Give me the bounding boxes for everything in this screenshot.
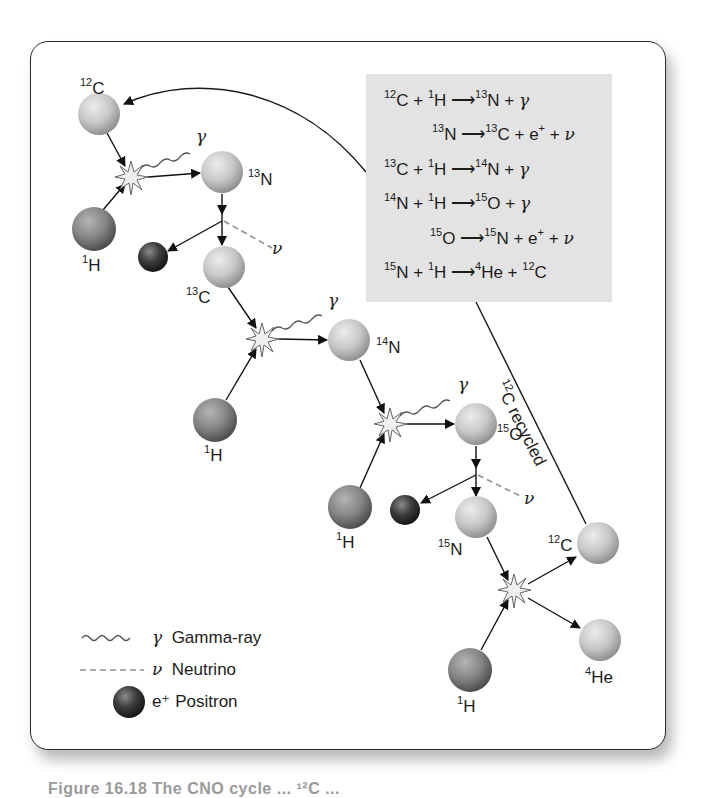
nucleus-o15	[455, 403, 497, 445]
figure-caption: Figure 16.18 The CNO cycle ... ¹²C ...	[48, 780, 340, 798]
nucleus-h1-c	[328, 485, 372, 529]
legend-neutrino: ν Neutrino	[152, 659, 236, 680]
gamma-label-2: γ	[328, 290, 338, 310]
gamma-label-3: γ	[458, 374, 468, 394]
positron-1	[138, 242, 168, 272]
label-n14: 14N	[376, 338, 401, 358]
label-h1-a: 1H	[82, 256, 100, 276]
label-h1-d: 1H	[457, 697, 475, 717]
nucleus-h1-a	[72, 207, 116, 251]
legend-gamma: γ Gamma-ray	[152, 627, 261, 648]
nucleus-n15	[455, 496, 497, 538]
legend-positron-icon	[113, 686, 145, 718]
label-c12-in: 12C	[80, 79, 105, 99]
positron-2	[390, 495, 420, 525]
label-c13: 13C	[186, 288, 211, 308]
equation-1: 12C + 1H ⟶13N + γ	[384, 90, 529, 111]
nucleus-he4	[579, 619, 621, 661]
nucleus-c13	[203, 246, 245, 288]
nucleus-n13	[201, 151, 243, 193]
nucleus-c12-in	[78, 93, 120, 135]
equation-6: 15N + 1H ⟶4He + 12C	[384, 262, 547, 283]
neutrino-label-1: ν	[272, 238, 282, 258]
equation-5: 15O ⟶15N + e+ + ν	[430, 228, 574, 249]
label-h1-b: 1H	[204, 446, 222, 466]
label-c12-out: 12C	[548, 536, 573, 556]
label-n13: 13N	[248, 170, 273, 190]
nucleus-n14	[328, 319, 370, 361]
equation-3: 13C + 1H ⟶14N + γ	[384, 159, 529, 180]
gamma-label-1: γ	[196, 126, 206, 146]
nucleus-h1-b	[193, 398, 237, 442]
legend-wavy-line-icon	[82, 636, 130, 641]
label-n15: 15N	[438, 540, 463, 560]
nucleus-h1-d	[448, 648, 492, 692]
neutrino-label-2: ν	[524, 488, 534, 508]
label-h1-c: 1H	[336, 533, 354, 553]
label-he4: 4He	[585, 668, 613, 688]
nucleus-c12-out	[577, 522, 619, 564]
legend-positron: e⁺ Positron	[152, 691, 238, 712]
recycle-arc-top	[124, 88, 366, 172]
equation-4: 14N + 1H ⟶15O + γ	[384, 193, 530, 214]
equation-2: 13N ⟶13C + e+ + ν	[432, 124, 575, 145]
